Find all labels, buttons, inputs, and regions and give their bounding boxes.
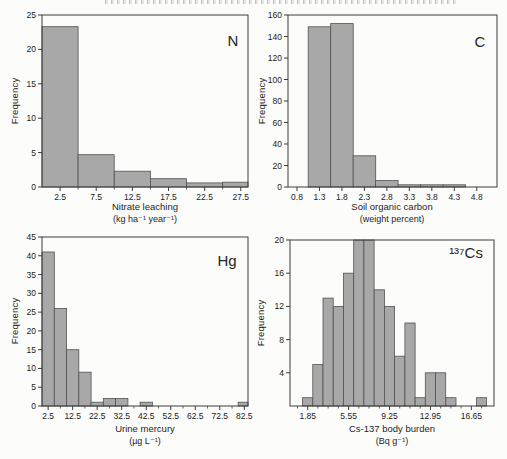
x-tick-label: 1.3 (314, 192, 326, 202)
y-tick-label: 0 (31, 182, 36, 192)
y-tick-label: 15 (27, 345, 37, 355)
panel-letter-nitrate: N (228, 33, 239, 48)
bar (376, 181, 399, 187)
x-tick-label: 1.8 (336, 192, 348, 202)
bar (313, 365, 323, 407)
panel-letter-carbon: C (475, 34, 486, 49)
x-tick-label: 16.65 (461, 411, 483, 421)
y-tick-label: 5 (31, 382, 36, 392)
x-tick-label: 22.5 (196, 192, 213, 202)
y-tick-label: 35 (27, 270, 37, 280)
bar (42, 27, 78, 187)
y-tick-label: 30 (27, 288, 37, 298)
x-tick-label: 4.8 (471, 192, 483, 202)
y-tick-label: 25 (27, 307, 37, 317)
y-tick-label: 4 (279, 368, 284, 378)
bar (384, 306, 394, 406)
bar (354, 240, 364, 406)
y-tick-label: 5 (31, 148, 36, 158)
bar (67, 350, 79, 406)
x-axis-title-nitrate: Nitrate leaching (112, 202, 178, 212)
bar (150, 179, 186, 187)
x-tick-label: 12.5 (64, 411, 81, 421)
x-axis-unit-nitrate: (kg ha⁻¹ year⁻¹) (113, 215, 177, 224)
bar (476, 398, 486, 406)
bar (405, 323, 415, 406)
y-axis-title-cesium: Frequency (256, 300, 266, 347)
y-tick-label: 140 (268, 32, 282, 42)
bar (331, 24, 354, 187)
bar (114, 171, 150, 187)
bar (140, 402, 152, 406)
x-axis-title-carbon: Soil organic carbon (351, 202, 432, 212)
histogram-panel-soil_organic_carbon: 0.81.31.82.32.83.33.84.34.80204060801001… (268, 10, 497, 202)
y-tick-label: 160 (268, 10, 282, 20)
x-tick-label: 22.5 (89, 411, 106, 421)
bar (333, 306, 343, 406)
x-tick-label: 2.5 (54, 192, 66, 202)
bar (353, 156, 376, 187)
bar (238, 402, 248, 406)
x-tick-label: 4.3 (448, 192, 460, 202)
y-tick-label: 8 (279, 335, 284, 345)
panel-letter-cesium: ¹³⁷Cs (449, 245, 483, 260)
x-tick-label: 52.5 (162, 411, 179, 421)
y-tick-label: 12 (275, 301, 285, 311)
bar (103, 399, 115, 407)
bar (436, 373, 446, 406)
x-tick-label: 0.8 (291, 192, 303, 202)
y-axis-title-mercury: Frequency (10, 298, 20, 345)
x-axis-unit-cesium: (Bq g⁻¹) (376, 437, 409, 446)
y-tick-label: 60 (273, 118, 283, 128)
bar (344, 273, 354, 406)
bar (364, 240, 374, 406)
y-tick-label: 16 (275, 268, 285, 278)
y-tick-label: 20 (275, 235, 285, 245)
x-tick-label: 12.95 (420, 411, 442, 421)
x-tick-label: 32.5 (113, 411, 130, 421)
bar (91, 402, 103, 406)
x-tick-label: 62.5 (187, 411, 204, 421)
y-tick-label: 100 (268, 75, 282, 85)
y-tick-label: 40 (273, 139, 283, 149)
x-axis-unit-mercury: (µg L⁻¹) (129, 437, 161, 446)
y-tick-label: 0 (31, 401, 36, 411)
bar (308, 27, 331, 187)
x-tick-label: 82.5 (236, 411, 253, 421)
histogram-panel-cs137_body_burden: 1.855.559.2512.9516.6548121620 (275, 235, 494, 421)
bar (323, 298, 333, 406)
y-tick-label: 80 (273, 96, 283, 106)
bar (446, 398, 456, 406)
x-tick-label: 72.5 (212, 411, 229, 421)
figure-root: 2.57.512.517.522.527.505101520250.81.31.… (0, 0, 507, 459)
y-tick-label: 15 (27, 79, 37, 89)
figure-svg: 2.57.512.517.522.527.505101520250.81.31.… (0, 0, 507, 459)
y-tick-label: 20 (27, 44, 37, 54)
bar (78, 155, 114, 187)
bar (79, 372, 91, 406)
bar (54, 308, 66, 406)
x-axis-title-mercury: Urine mercury (115, 424, 175, 434)
x-axis-unit-carbon: (weight percent) (360, 215, 425, 224)
x-axis-title-cesium: Cs-137 body burden (349, 424, 435, 434)
y-tick-label: 20 (273, 161, 283, 171)
bar (223, 182, 248, 187)
y-tick-label: 10 (27, 113, 37, 123)
y-tick-label: 40 (27, 251, 37, 261)
y-tick-label: 20 (27, 326, 37, 336)
panel-letter-mercury: Hg (217, 253, 236, 268)
bar (415, 398, 425, 406)
bar (425, 373, 435, 406)
x-tick-label: 2.5 (42, 411, 54, 421)
y-tick-label: 10 (27, 363, 37, 373)
x-tick-label: 9.25 (381, 411, 398, 421)
y-tick-label: 25 (27, 10, 37, 20)
y-tick-label: 0 (277, 182, 282, 192)
bar (116, 399, 128, 407)
x-tick-label: 1.85 (299, 411, 316, 421)
x-tick-label: 5.55 (340, 411, 357, 421)
bar (303, 398, 313, 406)
bar (187, 183, 223, 187)
bar (42, 252, 54, 406)
y-axis-title-nitrate: Frequency (10, 78, 20, 125)
